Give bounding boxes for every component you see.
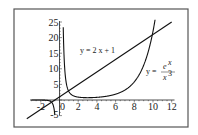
x-tick-label: 8 — [132, 101, 137, 112]
y-tick-label: 5 — [54, 79, 59, 90]
x-tick-label: -2 — [37, 101, 45, 112]
curve-equation-label: y = e x x 3 — [146, 58, 175, 82]
y-tick-label: 20 — [49, 32, 59, 43]
series-curve-exp-over-cube-positive — [63, 20, 155, 98]
y-tick-label: 10 — [49, 63, 59, 74]
y-tick-label: 25 — [49, 17, 59, 28]
svg-text:x: x — [167, 58, 172, 67]
x-tick-label: 6 — [113, 101, 118, 112]
line-equation-label: y = 2 x + 1 — [80, 46, 115, 55]
svg-text:3: 3 — [168, 69, 172, 78]
x-tick-label: 4 — [94, 101, 99, 112]
svg-text:e: e — [163, 62, 167, 71]
x-tick-label: 12 — [167, 101, 177, 112]
x-tick-label: 10 — [148, 101, 158, 112]
svg-text:y =: y = — [146, 67, 157, 76]
chart: -2024681012-5510152025 y = 2 x + 1 y = e… — [0, 0, 198, 135]
x-tick-label: 2 — [76, 101, 81, 112]
y-tick-label: 15 — [49, 48, 59, 59]
svg-text:x: x — [162, 73, 167, 82]
x-tick-label: 0 — [60, 101, 65, 112]
